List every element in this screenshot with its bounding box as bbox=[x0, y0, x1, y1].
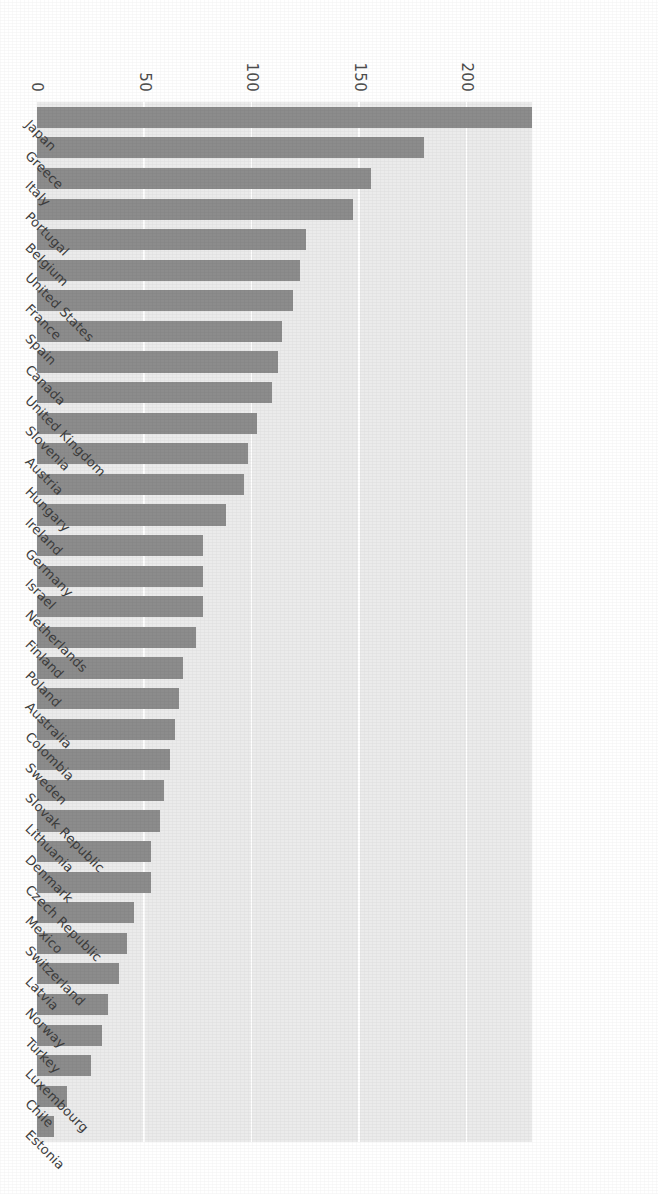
category-slot: Mexico bbox=[0, 897, 37, 928]
bar-slot bbox=[37, 530, 532, 561]
bar-slot bbox=[37, 286, 532, 317]
bar-slot bbox=[37, 163, 532, 194]
value-tick-label: 150 bbox=[351, 62, 369, 92]
bar-slot bbox=[37, 194, 532, 225]
bar-slot bbox=[37, 897, 532, 928]
category-slot: Norway bbox=[0, 989, 37, 1020]
category-slot: Latvia bbox=[0, 959, 37, 990]
category-slot: Netherlands bbox=[0, 592, 37, 623]
category-slot: Slovak Republic bbox=[0, 775, 37, 806]
bar-slot bbox=[37, 867, 532, 898]
bar-slot bbox=[37, 347, 532, 378]
bar-slot bbox=[37, 439, 532, 470]
bar-slot bbox=[37, 224, 532, 255]
bar[interactable] bbox=[37, 199, 353, 220]
category-slot: United States bbox=[0, 255, 37, 286]
bar[interactable] bbox=[37, 137, 424, 158]
category-slot: United Kingdom bbox=[0, 377, 37, 408]
value-tick-label: 0 bbox=[28, 82, 46, 92]
bar-slot bbox=[37, 561, 532, 592]
bar[interactable] bbox=[37, 382, 272, 403]
bar-slot bbox=[37, 500, 532, 531]
value-axis: 050100150200 bbox=[37, 0, 532, 102]
value-tick-label: 50 bbox=[136, 72, 154, 92]
category-slot: Poland bbox=[0, 653, 37, 684]
category-axis: JapanGreeceItalyPortugalBelgiumUnited St… bbox=[0, 102, 37, 1142]
bar-slot bbox=[37, 316, 532, 347]
bar[interactable] bbox=[37, 596, 203, 617]
bar-slot bbox=[37, 744, 532, 775]
category-slot: Lithuania bbox=[0, 806, 37, 837]
bar-slot bbox=[37, 836, 532, 867]
bar[interactable] bbox=[37, 229, 306, 250]
category-slot: Chile bbox=[0, 1081, 37, 1112]
category-slot: Israel bbox=[0, 561, 37, 592]
bar[interactable] bbox=[37, 260, 300, 281]
category-slot: Hungary bbox=[0, 469, 37, 500]
value-tick-label: 200 bbox=[458, 62, 476, 92]
category-slot: Sweden bbox=[0, 744, 37, 775]
bar-slot bbox=[37, 377, 532, 408]
bar-slot bbox=[37, 959, 532, 990]
bar-slot bbox=[37, 408, 532, 439]
bar-chart-figure: 050100150200 JapanGreeceItalyPortugalBel… bbox=[0, 0, 658, 1194]
category-slot: Denmark bbox=[0, 836, 37, 867]
rotated-figure-stage: 050100150200 JapanGreeceItalyPortugalBel… bbox=[0, 0, 658, 1194]
bar[interactable] bbox=[37, 474, 244, 495]
category-slot: Canada bbox=[0, 347, 37, 378]
category-slot: Japan bbox=[0, 102, 37, 133]
bar-slot bbox=[37, 102, 532, 133]
bar[interactable] bbox=[37, 168, 371, 189]
bar-slot bbox=[37, 928, 532, 959]
plot-area bbox=[37, 102, 532, 1142]
bar-slot bbox=[37, 653, 532, 684]
category-slot: Portugal bbox=[0, 194, 37, 225]
category-slot: Spain bbox=[0, 316, 37, 347]
bar-slot bbox=[37, 255, 532, 286]
bar-slot bbox=[37, 622, 532, 653]
category-slot: Germany bbox=[0, 530, 37, 561]
category-slot: Luxembourg bbox=[0, 1050, 37, 1081]
category-slot: Czech Republic bbox=[0, 867, 37, 898]
category-slot: France bbox=[0, 286, 37, 317]
category-slot: Finland bbox=[0, 622, 37, 653]
category-slot: Estonia bbox=[0, 1112, 37, 1143]
bar-series bbox=[37, 102, 532, 1142]
bar-slot bbox=[37, 714, 532, 745]
bar-slot bbox=[37, 683, 532, 714]
category-slot: Belgium bbox=[0, 224, 37, 255]
bar[interactable] bbox=[37, 351, 278, 372]
category-slot: Greece bbox=[0, 133, 37, 164]
category-slot: Austria bbox=[0, 439, 37, 470]
bar-slot bbox=[37, 989, 532, 1020]
category-slot: Colombia bbox=[0, 714, 37, 745]
bar-slot bbox=[37, 775, 532, 806]
bar-slot bbox=[37, 133, 532, 164]
category-slot: Italy bbox=[0, 163, 37, 194]
chart-page: 050100150200 JapanGreeceItalyPortugalBel… bbox=[0, 0, 658, 1194]
value-tick-label: 100 bbox=[243, 62, 261, 92]
bar-slot bbox=[37, 1081, 532, 1112]
category-slot: Slovenia bbox=[0, 408, 37, 439]
bar[interactable] bbox=[37, 107, 532, 128]
bar-slot bbox=[37, 806, 532, 837]
bar-slot bbox=[37, 1112, 532, 1142]
category-slot: Switzerland bbox=[0, 928, 37, 959]
category-slot: Turkey bbox=[0, 1020, 37, 1051]
bar[interactable] bbox=[37, 290, 293, 311]
bar-slot bbox=[37, 1050, 532, 1081]
bar-slot bbox=[37, 1020, 532, 1051]
category-slot: Ireland bbox=[0, 500, 37, 531]
category-slot: Australia bbox=[0, 683, 37, 714]
bar-slot bbox=[37, 469, 532, 500]
bar-slot bbox=[37, 592, 532, 623]
